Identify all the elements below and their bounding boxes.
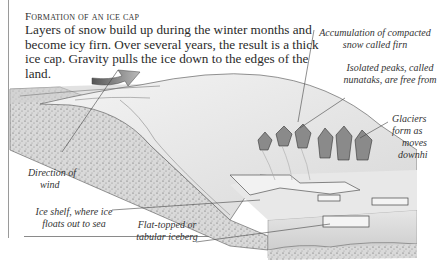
label-line: floats out to sea (34, 218, 114, 230)
label-firn: Accumulation of compacted snow called fi… (310, 27, 440, 51)
label-line: form as (392, 125, 427, 137)
label-line: Accumulation of compacted (310, 27, 440, 39)
label-line: wind (22, 179, 82, 191)
label-line: Ice shelf, where ice (34, 206, 114, 218)
label-iceberg: Flat-topped or tabular iceberg (134, 219, 200, 243)
label-line: Direction of (22, 167, 82, 179)
label-line: nunataks, are free from (335, 74, 441, 86)
iceberg-small (318, 195, 340, 201)
tabular-iceberg (323, 216, 369, 227)
label-glaciers: Glaciers form as moves downhi (392, 113, 427, 161)
label-wind-direction: Direction of wind (22, 167, 82, 191)
label-line: Glaciers (392, 113, 427, 125)
label-nunataks: Isolated peaks, called nunataks, are fre… (335, 62, 441, 86)
label-line: snow called firn (310, 39, 440, 51)
label-ice-shelf: Ice shelf, where ice floats out to sea (34, 206, 114, 230)
label-line: tabular iceberg (134, 231, 200, 243)
iceberg-right (372, 198, 408, 205)
label-line: moves (392, 137, 427, 149)
label-line: downhi (392, 149, 427, 161)
label-line: Isolated peaks, called (335, 62, 441, 74)
label-line: Flat-topped or (134, 219, 200, 231)
